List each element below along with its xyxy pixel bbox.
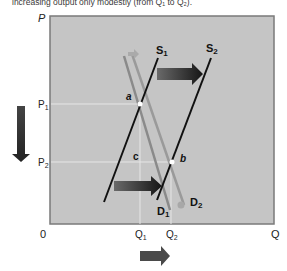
origin-label: 0 — [40, 228, 46, 240]
d2-end-marker — [178, 202, 185, 209]
p2-label: P2 — [38, 157, 49, 169]
point-a-label: a — [126, 91, 132, 102]
price-decrease-arrow — [12, 106, 30, 162]
point-b-marker — [170, 160, 175, 165]
output-increase-arrow — [140, 246, 170, 266]
point-a-marker — [138, 102, 143, 107]
p1-label: P1 — [38, 99, 49, 111]
point-b-label: b — [180, 153, 186, 164]
p-axis-label: P — [38, 12, 46, 24]
q-axis-label: Q — [271, 228, 280, 240]
q1-label: Q1 — [135, 229, 147, 241]
supply-demand-chart: P Q 0 P1 P2 Q1 Q2 S1 S2 D1 D2 a b c — [0, 0, 287, 271]
point-c-label: c — [133, 151, 139, 162]
q2-label: Q2 — [166, 229, 178, 241]
